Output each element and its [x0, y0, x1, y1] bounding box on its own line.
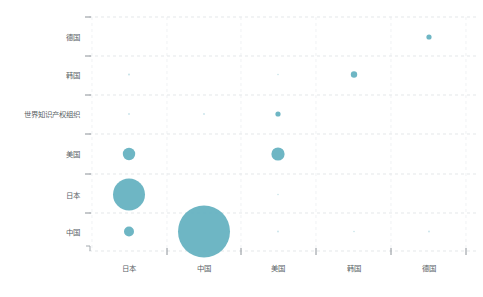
y-axis-label-korea: 韩国 — [66, 71, 80, 80]
horizontal-gridlines — [89, 17, 479, 251]
bubble-point[interactable] — [203, 113, 205, 115]
bubble-point[interactable] — [426, 34, 431, 39]
bubble-series — [113, 34, 432, 257]
bubble-point[interactable] — [113, 179, 145, 211]
x-axis-label-china: 中国 — [197, 264, 211, 273]
y-axis-label-china: 中国 — [66, 228, 80, 237]
y-axis-label-usa: 美国 — [66, 150, 80, 159]
bubble-point[interactable] — [271, 147, 284, 160]
x-axis-label-japan: 日本 — [122, 264, 137, 273]
bubble-point[interactable] — [275, 111, 280, 116]
bubble-chart-container: 德国 韩国 世界知识产权组织 美国 日本 中国 日本 中国 美国 韩国 德国 — [0, 0, 483, 297]
y-axis-label-germany: 德国 — [66, 33, 80, 42]
bubble-point[interactable] — [123, 148, 135, 160]
bubble-point[interactable] — [128, 113, 130, 115]
bubble-point[interactable] — [353, 231, 355, 233]
bubble-point[interactable] — [277, 231, 279, 233]
bubble-point[interactable] — [178, 206, 230, 258]
bubble-point[interactable] — [351, 71, 357, 77]
x-axis-label-usa: 美国 — [271, 264, 285, 273]
x-axis-label-germany: 德国 — [422, 264, 436, 273]
axis-corner — [86, 246, 90, 251]
x-axis-labels: 日本 中国 美国 韩国 德国 — [122, 264, 436, 273]
y-axis-labels: 德国 韩国 世界知识产权组织 美国 日本 中国 — [24, 33, 81, 237]
bubble-point[interactable] — [128, 74, 130, 76]
y-axis-ticks — [85, 17, 91, 213]
bubble-point[interactable] — [277, 74, 279, 76]
bubble-point[interactable] — [124, 227, 134, 237]
x-axis-label-korea: 韩国 — [347, 264, 361, 273]
y-axis-label-japan: 日本 — [66, 191, 81, 200]
bubble-point[interactable] — [428, 231, 430, 233]
y-axis-label-wipo: 世界知识产权组织 — [24, 110, 80, 119]
bubble-chart-canvas: 德国 韩国 世界知识产权组织 美国 日本 中国 日本 中国 美国 韩国 德国 — [0, 0, 483, 297]
bubble-point[interactable] — [277, 194, 279, 196]
